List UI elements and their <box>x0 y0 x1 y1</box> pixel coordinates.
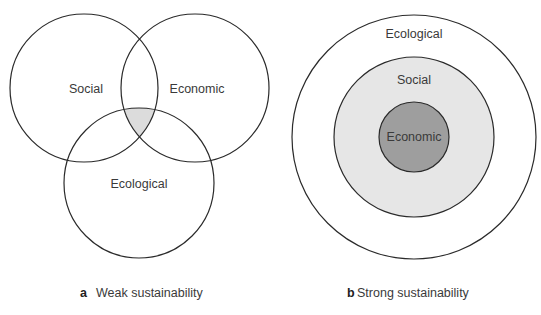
strong-sustainability-nested: Ecological Social Economic <box>292 15 536 259</box>
ecological-label: Ecological <box>111 177 168 191</box>
sustainability-diagram: Social Economic Ecological Ecological So… <box>0 0 541 315</box>
economic-label: Economic <box>170 82 225 96</box>
caption-a-letter: a <box>80 286 88 300</box>
economic-core-label: Economic <box>387 130 442 144</box>
ecological-ring-label: Ecological <box>386 27 443 41</box>
social-label: Social <box>69 82 103 96</box>
social-ring-label: Social <box>397 73 431 87</box>
caption-a: a Weak sustainability <box>80 286 204 300</box>
caption-a-text: Weak sustainability <box>96 286 204 300</box>
caption-b: b Strong sustainability <box>347 286 470 300</box>
caption-b-letter: b <box>347 286 355 300</box>
weak-sustainability-venn: Social Economic Ecological <box>10 14 269 258</box>
caption-b-text: Strong sustainability <box>357 286 470 300</box>
